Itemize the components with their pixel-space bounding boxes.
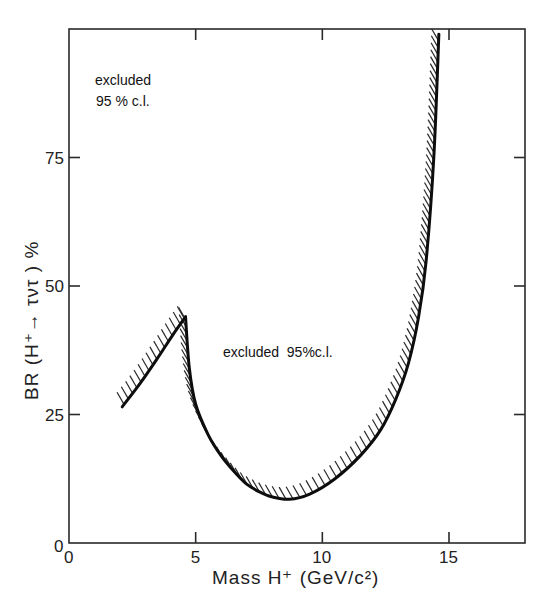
hatch-mark [385,395,392,407]
hatch-mark [350,447,357,459]
x-tick-label: 5 [191,548,200,567]
hatch-mark [379,407,386,419]
hatch-mark [146,353,153,365]
hatch-mark [130,376,137,388]
hatch-mark [388,388,395,400]
exclusion-curves [122,34,439,499]
hatch-mark [383,401,390,413]
hatch-mark [318,473,325,485]
y-tick-label: 50 [45,277,64,296]
hatch-mark [364,431,371,443]
x-tick-label: 0 [64,548,73,567]
hatch-mark [368,425,375,437]
hatch-mark [306,480,313,492]
annotation-excluded-top-line2: 95 % c.l. [96,93,150,109]
hatch-mark [158,335,165,347]
y-tick-label: 75 [45,149,64,168]
hatch-mark [126,381,133,393]
hatch-mark [393,375,400,387]
annotation-excluded-middle: excluded 95%c.l. [223,344,333,360]
hatch-mark [154,341,161,353]
hatch-mark [360,436,367,448]
y-axis-title: BR (H⁺→ τντ ) % [21,241,42,400]
hatch-mark [355,442,362,454]
hatch-mark [138,364,145,376]
hatch-mark [391,382,398,394]
y-axis-ticks: 255075 [45,149,525,425]
hatch-mark [165,324,172,336]
hatch-mark [142,359,149,371]
hatch-mark [335,461,342,473]
hatch-mark [121,387,128,399]
hatch-mark [376,414,383,426]
hatch-mark [340,456,347,468]
hatch-mark [169,318,176,330]
hatch-mark [173,312,180,324]
exclusion-boundary-curve [186,34,439,499]
hatch-mark [161,329,168,341]
y-tick-label: 25 [45,406,64,425]
hatch-mark [286,487,293,499]
x-tick-label: 15 [439,548,458,567]
hatch-mark [345,452,352,464]
hatch-mark [150,347,157,359]
hatch-mark [117,392,124,404]
exclusion-hatching [117,29,439,500]
hatch-mark [312,477,319,489]
y-origin-label: 0 [54,537,63,556]
hatch-mark [372,420,379,432]
hatch-mark [396,369,403,381]
hatch-mark [293,485,300,497]
exclusion-boundary-curve [122,317,185,407]
hatch-mark [300,483,307,495]
hatch-mark [330,465,337,477]
br-vs-mass-chart: 051015 255075 0 Mass H⁺ (GeV/c²) BR (H⁺→… [0,0,548,610]
hatch-mark [400,355,407,367]
hatch-mark [398,362,405,374]
annotation-excluded-top-line1: excluded [95,72,151,88]
x-axis-title: Mass H⁺ (GeV/c²) [212,567,379,588]
x-tick-label: 10 [312,548,331,567]
hatch-mark [324,470,331,482]
hatch-mark [134,370,141,382]
